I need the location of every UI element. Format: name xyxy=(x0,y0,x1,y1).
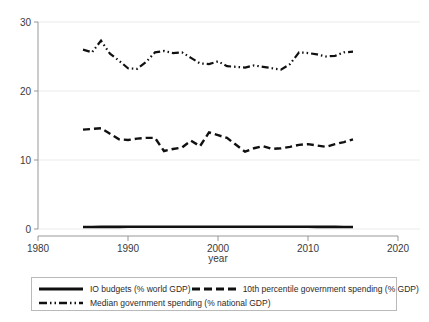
series-line-2 xyxy=(83,41,353,70)
legend-label-10th-percentile: 10th percentile government spending (% G… xyxy=(243,283,419,295)
x-axis-ticks xyxy=(38,236,398,241)
x-tick-label: 2020 xyxy=(387,243,410,254)
legend-swatch-dashed-icon xyxy=(191,283,237,295)
x-axis-title: year xyxy=(208,253,228,264)
legend-swatch-dashdot-icon xyxy=(38,297,84,309)
y-tick-label: 0 xyxy=(25,224,31,235)
line-chart-svg: 0102030 19801990200020102020 year xyxy=(0,0,429,268)
legend-label-io-budgets: IO budgets (% world GDP) xyxy=(90,283,191,295)
x-tick-label: 2010 xyxy=(297,243,320,254)
y-axis-ticks xyxy=(34,22,38,229)
legend-entry-io-budgets: IO budgets (% world GDP) xyxy=(38,283,191,295)
plot-area: 0102030 19801990200020102020 year xyxy=(0,0,429,268)
data-series-group xyxy=(83,41,353,227)
y-tick-label: 10 xyxy=(20,155,32,166)
y-axis-tick-labels: 0102030 xyxy=(20,17,32,235)
legend-row-1: IO budgets (% world GDP) 10th percentile… xyxy=(38,282,390,296)
chart-figure: 0102030 19801990200020102020 year IO bud… xyxy=(0,0,429,322)
legend-entry-10th-percentile: 10th percentile government spending (% G… xyxy=(191,283,419,295)
legend-entry-median: Median government spending (% national G… xyxy=(38,297,223,309)
legend-swatch-solid-icon xyxy=(38,283,84,295)
y-tick-label: 30 xyxy=(20,17,32,28)
legend-row-2: Median government spending (% national G… xyxy=(38,296,390,310)
x-tick-label: 1980 xyxy=(27,243,50,254)
chart-legend: IO budgets (% world GDP) 10th percentile… xyxy=(31,277,397,311)
series-line-1 xyxy=(83,128,353,151)
y-tick-label: 20 xyxy=(20,86,32,97)
gridlines xyxy=(38,22,420,229)
legend-label-median: Median government spending (% national G… xyxy=(90,297,271,309)
x-tick-label: 1990 xyxy=(117,243,140,254)
